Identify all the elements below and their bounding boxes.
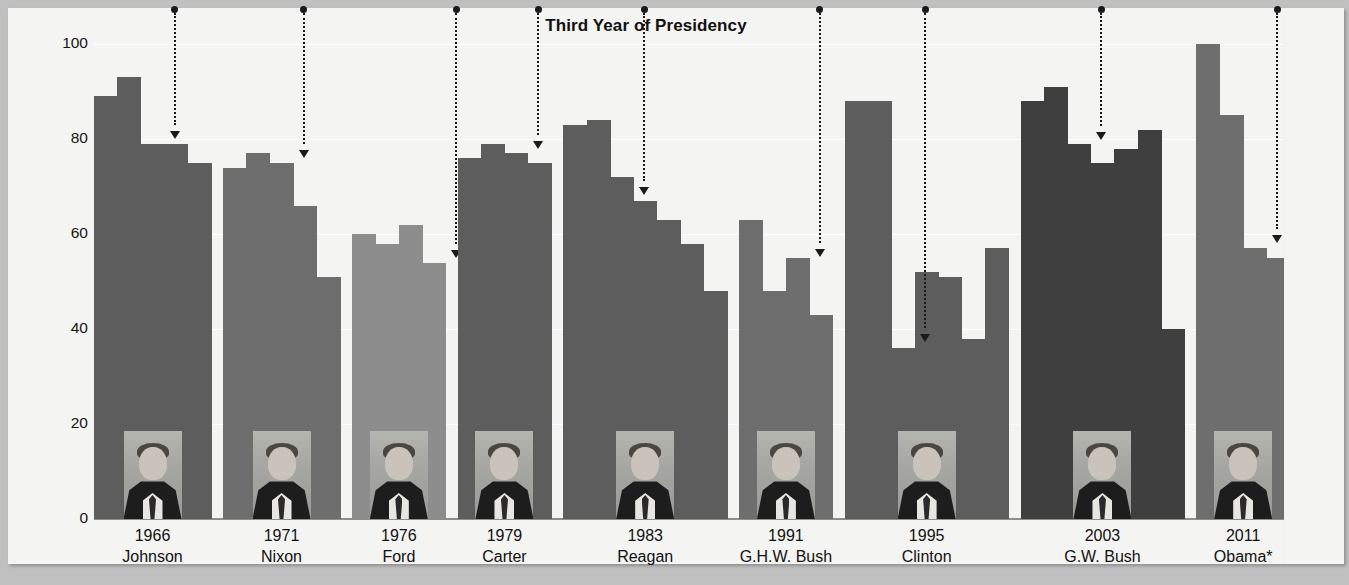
callout-value-label: 53.8	[414, 0, 498, 2]
y-axis-tick-0: 0	[28, 509, 88, 527]
x-axis-tick: 1995Clinton	[845, 525, 1009, 567]
president-portrait	[898, 431, 956, 519]
x-axis-year: 2003	[1021, 525, 1185, 546]
bar	[704, 291, 728, 519]
x-axis-tick: 2003G.W. Bush	[1021, 525, 1185, 567]
callout-dot	[171, 6, 178, 13]
x-axis-tick: 2011Obama*	[1196, 525, 1290, 567]
callout-value-label: 76.8	[496, 0, 580, 2]
x-axis-president: G.W. Bush	[1021, 546, 1185, 567]
callout-arrow-icon	[1096, 132, 1106, 140]
bar	[868, 101, 892, 519]
bar-group-johnson	[94, 44, 211, 519]
x-axis-president: Nixon	[223, 546, 340, 567]
callout-leader-line	[303, 13, 307, 144]
bar	[1138, 130, 1162, 520]
callout-leader-line	[537, 13, 541, 135]
president-portrait	[1073, 431, 1131, 519]
source-strip: NIXON AND REAGAN: www.archives.gov; CART…	[1284, 8, 1344, 564]
y-axis-tick-100: 100	[28, 34, 88, 52]
figure-root: Third Year of Presidency Percentage of L…	[0, 0, 1349, 585]
bar	[587, 120, 611, 519]
x-axis-president: Clinton	[845, 546, 1009, 567]
callout-value-label: 36.2	[883, 0, 967, 2]
bar	[962, 339, 986, 520]
president-portrait	[757, 431, 815, 519]
callout-leader-line	[819, 13, 823, 243]
x-axis-tick: 1991G.H.W. Bush	[739, 525, 833, 567]
x-axis-tick: 1979Carter	[458, 525, 552, 567]
callout-arrow-icon	[639, 187, 649, 195]
y-axis-tick-40: 40	[28, 319, 88, 337]
callout-leader-line	[1100, 13, 1104, 126]
callout-arrow-icon	[920, 334, 930, 342]
callout-arrow-icon	[533, 141, 543, 149]
callout-dot	[300, 6, 307, 13]
callout-dot	[453, 6, 460, 13]
bar	[680, 244, 704, 520]
x-axis-tick: 1976Ford	[352, 525, 446, 567]
callout-value-label: 67.1	[602, 0, 686, 2]
x-axis-tick: 1971Nixon	[223, 525, 340, 567]
callout-leader-line	[643, 13, 647, 181]
x-axis-year: 2011	[1196, 525, 1290, 546]
president-portrait	[253, 431, 311, 519]
x-axis-year: 1976	[352, 525, 446, 546]
x-axis-tick: 1966Johnson	[94, 525, 211, 567]
callout-leader-line	[174, 13, 178, 125]
x-axis-year: 1971	[223, 525, 340, 546]
plot-area: 02040608010079.01966Johnson75.01971Nixon…	[94, 44, 1290, 519]
callout-value-label: 54.2	[778, 0, 862, 2]
callout-dot	[535, 6, 542, 13]
callout-arrow-icon	[1272, 235, 1282, 243]
bar	[1161, 329, 1185, 519]
callout-arrow-icon	[299, 150, 309, 158]
callout-arrow-icon	[815, 249, 825, 257]
bar	[223, 168, 247, 520]
callout-dot	[816, 6, 823, 13]
x-axis-president: Reagan	[563, 546, 727, 567]
bar	[845, 101, 869, 519]
bar	[94, 96, 118, 519]
president-portrait	[124, 431, 182, 519]
x-axis-year: 1979	[458, 525, 552, 546]
callout-arrow-icon	[170, 131, 180, 139]
x-axis-year: 1966	[94, 525, 211, 546]
bar-group-nixon	[223, 44, 340, 519]
callout-value-label: 57.0	[1235, 0, 1319, 2]
bar	[985, 248, 1009, 519]
x-axis-year: 1983	[563, 525, 727, 546]
callout-leader-line	[924, 13, 928, 328]
x-axis-year: 1995	[845, 525, 1009, 546]
president-portrait	[616, 431, 674, 519]
bar	[188, 163, 212, 519]
bar	[1021, 101, 1045, 519]
x-axis-president: Carter	[458, 546, 552, 567]
president-portrait	[475, 431, 533, 519]
callout-dot	[1098, 6, 1105, 13]
x-axis-president: G.H.W. Bush	[739, 546, 833, 567]
callout-dot	[1274, 6, 1281, 13]
x-axis-president: Obama*	[1196, 546, 1290, 567]
bar	[563, 125, 587, 519]
callout-value-label: 75.0	[262, 0, 346, 2]
callout-dot	[641, 6, 648, 13]
callout-value-label: 78.7	[1059, 0, 1143, 2]
x-axis-president: Ford	[352, 546, 446, 567]
x-axis-year: 1991	[739, 525, 833, 546]
y-axis-tick-60: 60	[28, 224, 88, 242]
x-axis-tick: 1983Reagan	[563, 525, 727, 567]
callout-leader-line	[1276, 13, 1280, 229]
chart-panel: Third Year of Presidency Percentage of L…	[8, 8, 1284, 564]
y-axis-tick-80: 80	[28, 129, 88, 147]
bar-group-ford	[352, 44, 446, 519]
y-axis-tick-20: 20	[28, 414, 88, 432]
president-portrait	[370, 431, 428, 519]
x-axis-president: Johnson	[94, 546, 211, 567]
bar	[317, 277, 341, 519]
callout-value-label: 79.0	[133, 0, 217, 2]
president-portrait	[1214, 431, 1272, 519]
bar	[1044, 87, 1068, 519]
callout-dot	[922, 6, 929, 13]
